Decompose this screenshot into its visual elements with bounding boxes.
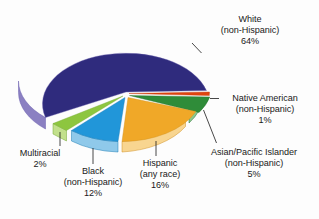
slice-label-asian-pacific-islander-line2: (non-Hispanic) — [190, 158, 318, 169]
slice-value-asian-pacific-islander: 5% — [190, 169, 318, 180]
slice-label-native-american-line2: (non-Hispanic) — [212, 104, 318, 115]
slice-side-white — [19, 81, 46, 129]
slice-label-asian-pacific-islander-line1: Asian/Pacific Islander — [190, 147, 318, 158]
slice-label-asian-pacific-islander: Asian/Pacific Islander (non-Hispanic) 5% — [190, 147, 318, 181]
slice-label-black: Black (non-Hispanic) 12% — [52, 166, 134, 200]
slice-label-white: White (non-Hispanic) 64% — [196, 14, 304, 48]
slice-label-native-american-line1: Native American — [212, 93, 318, 104]
slice-value-multiracial: 2% — [4, 159, 76, 170]
slice-label-multiracial: Multiracial 2% — [4, 148, 76, 170]
slice-value-white: 64% — [196, 36, 304, 47]
slice-label-native-american: Native American (non-Hispanic) 1% — [212, 93, 318, 127]
pie-chart-figure: White (non-Hispanic) 64% Native American… — [0, 0, 319, 219]
slice-value-native-american: 1% — [212, 115, 318, 126]
slice-label-white-line2: (non-Hispanic) — [196, 25, 304, 36]
slice-value-black: 12% — [52, 188, 134, 199]
slice-label-white-line1: White — [196, 14, 304, 25]
slice-label-black-line2: (non-Hispanic) — [52, 177, 134, 188]
slice-label-multiracial-line1: Multiracial — [4, 148, 76, 159]
slice-top-native-american — [129, 92, 210, 96]
